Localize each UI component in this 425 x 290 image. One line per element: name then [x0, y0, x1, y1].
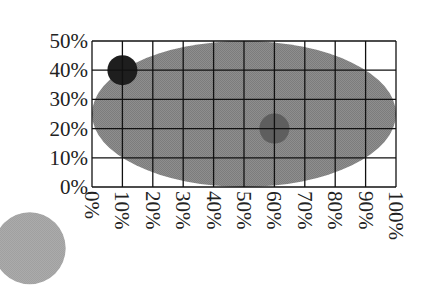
x-tick-label: 20%	[141, 191, 165, 230]
x-tick-label: 10%	[110, 191, 134, 230]
y-axis-ticks: 0%10%20%30%40%50%	[50, 29, 89, 199]
x-tick-label: 40%	[202, 191, 226, 230]
x-tick-label: 70%	[293, 191, 317, 230]
x-tick-label: 30%	[171, 191, 195, 230]
x-tick-label: 60%	[262, 191, 286, 230]
x-tick-label: 100%	[384, 191, 408, 240]
chart-canvas: 0%10%20%30%40%50% 0%10%20%30%40%50%60%70…	[0, 0, 425, 290]
y-tick-label: 20%	[50, 117, 89, 141]
x-tick-label: 80%	[323, 191, 347, 230]
x-tick-label: 90%	[354, 191, 378, 230]
y-tick-label: 30%	[50, 87, 89, 111]
y-tick-label: 50%	[50, 29, 89, 53]
x-tick-label: 50%	[232, 191, 256, 230]
x-axis-ticks: 0%10%20%30%40%50%60%70%80%90%100%	[80, 191, 408, 240]
chart: 0%10%20%30%40%50% 0%10%20%30%40%50%60%70…	[0, 0, 425, 290]
y-tick-label: 10%	[50, 146, 89, 170]
y-tick-label: 40%	[50, 58, 89, 82]
light-point-outside	[0, 212, 66, 284]
x-tick-label: 0%	[80, 191, 104, 219]
